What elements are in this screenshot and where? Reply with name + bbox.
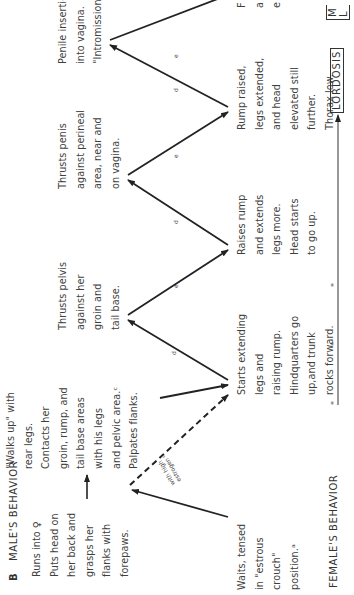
dashed-arrow-m1-to-f2 [130, 395, 228, 485]
rotated-figure-page: B MALE'S BEHAVIOR Runs into ♀ Puts head … [0, 0, 354, 595]
arrow-f1-to-m1 [132, 490, 228, 517]
arrow-f3-to-m4 [128, 180, 228, 245]
arrow-f2-to-m3 [128, 320, 228, 380]
arrow-m2-to-f2 [160, 385, 228, 398]
arrow-m5-to-f5 [110, 0, 228, 40]
behavior-flow-arrows [0, 0, 354, 595]
arrow-m4-to-f4 [128, 112, 228, 175]
arrow-f4-to-m5 [110, 45, 228, 107]
arrow-m3-to-f3 [128, 250, 228, 315]
